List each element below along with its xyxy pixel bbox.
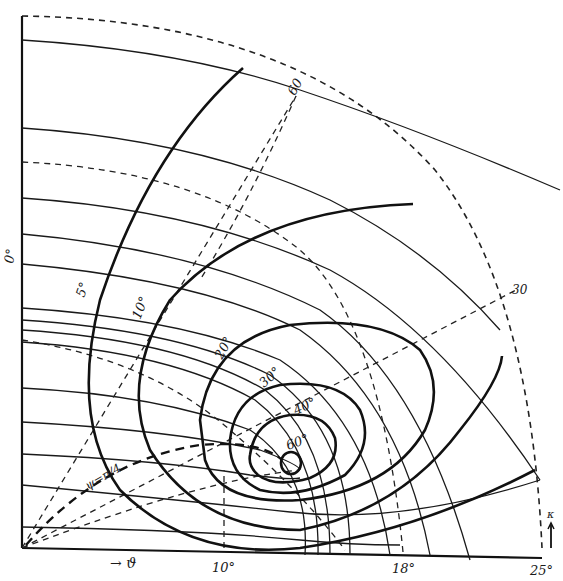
theta-arrow-label: → ϑ	[110, 555, 136, 571]
label-10deg: 10°	[129, 294, 152, 321]
contour-plot: 0° 5° 10° 20° 30° 40° 60° ψ=π/4 60 30 10…	[0, 0, 563, 581]
thick-contours	[89, 68, 535, 550]
bottom-tick-labels: 10° 18° 25°	[212, 560, 553, 578]
label-5deg: 5°	[73, 280, 92, 299]
axis-arrows: → ϑ κ	[110, 508, 555, 571]
tick-10: 10°	[212, 560, 235, 575]
tick-25: 25°	[529, 563, 553, 578]
label-radial-30: 30	[512, 283, 528, 297]
contour-labels: 0° 5° 10° 20° 30° 40° 60° ψ=π/4 60 30	[1, 76, 527, 493]
label-0deg: 0°	[1, 247, 18, 264]
tick-18: 18°	[392, 561, 415, 576]
contour-10	[139, 204, 502, 530]
diagram-figure: 0° 5° 10° 20° 30° 40° 60° ψ=π/4 60 30 10…	[0, 0, 563, 581]
kappa-label: κ	[546, 508, 555, 521]
label-radial-60: 60	[284, 76, 305, 98]
